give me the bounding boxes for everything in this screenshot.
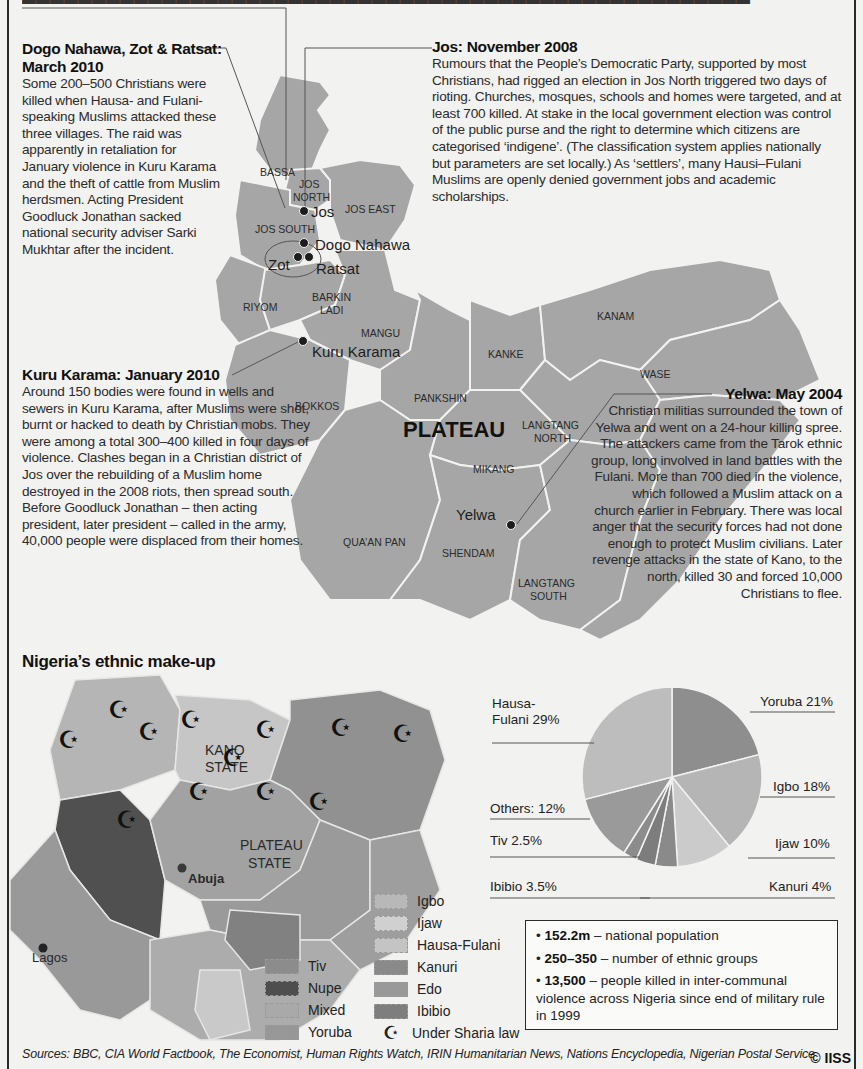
legend-col-1: Tiv Nupe Mixed Yoruba [265, 955, 352, 1043]
crescent-star-icon: ☪ [308, 788, 330, 815]
lga-label-riyom: RIYOM [243, 301, 277, 313]
place-dot-dogo [300, 239, 309, 248]
legend-swatch [374, 894, 408, 909]
story-title: Dogo Nahawa, Zot & Ratsat: March 2010 [22, 40, 222, 76]
lga-label-north2: NORTH [534, 432, 571, 444]
lga-label-quaan-pan: QUA’AN PAN [343, 536, 406, 548]
story-dogo-nahawa: Dogo Nahawa, Zot & Ratsat: March 2010 So… [22, 40, 222, 259]
abuja-dot [178, 864, 187, 873]
lga-label-wase: WASE [640, 368, 671, 380]
crescent-star-icon: ☪ [188, 778, 210, 805]
legend-item-tiv: Tiv [265, 955, 352, 977]
lga-label-jos-south: JOS SOUTH [255, 223, 315, 235]
crescent-star-icon: ☪ [255, 778, 277, 805]
legend-swatch [374, 982, 408, 997]
crescent-star-icon: ☪ [180, 706, 202, 733]
lagos-dot [39, 944, 48, 953]
fact-box: • 152.2m – national population • 250–350… [525, 920, 838, 1030]
legend-item-kanuri: Kanuri [374, 956, 519, 978]
lga-label-jos-east: JOS EAST [345, 203, 396, 215]
legend-item-yoruba: Yoruba [265, 1021, 352, 1043]
lga-label-pankshin: PANKSHIN [414, 392, 467, 404]
story-body: Some 200–500 Christians were killed when… [22, 76, 222, 259]
crescent-star-icon: ☪ [222, 744, 244, 771]
place-dot-kuru [299, 337, 308, 346]
label-lagos: Lagos [32, 950, 68, 965]
lga-label-north: NORTH [293, 191, 330, 203]
story-title: Jos: November 2008 [432, 38, 842, 56]
story-body: Around 150 bodies were found in wells an… [22, 384, 312, 550]
place-dot-yelwa [507, 521, 516, 530]
story-kuru-karama: Kuru Karama: January 2010 Around 150 bod… [22, 366, 312, 550]
legend-swatch [374, 916, 408, 931]
place-dot-zot [294, 253, 303, 262]
story-body: Christian militias surrounded the town o… [590, 403, 842, 602]
pie-label-tiv: Tiv 2.5% [490, 833, 542, 849]
lga-label-kanke: KANKE [488, 348, 524, 360]
lga-label-mikang: MIKANG [473, 463, 514, 475]
crescent-star-icon: ☪ [330, 714, 352, 741]
lga-label-langtang: LANGTANG [522, 419, 579, 431]
pie-label-ibibio: Ibibio 3.5% [490, 879, 557, 895]
place-label-kuru: Kuru Karama [312, 343, 401, 360]
fact-killed: • 13,500 – people killed in inter-commun… [536, 972, 827, 1025]
crescent-star-icon: ☪ [374, 1022, 408, 1044]
crescent-star-icon: ☪ [108, 696, 130, 723]
legend-item-sharia: ☪Under Sharia law [374, 1022, 519, 1044]
crescent-star-icon: ☪ [58, 726, 80, 753]
legend-swatch [265, 959, 299, 974]
pie-label-yoruba: Yoruba 21% [760, 694, 833, 710]
place-label-yelwa: Yelwa [456, 506, 496, 523]
crescent-star-icon: ☪ [138, 718, 160, 745]
crescent-star-icon: ☪ [255, 716, 277, 743]
lga-label-shendam: SHENDAM [442, 547, 495, 559]
legend-item-hausa-fulani: Hausa-Fulani [374, 934, 519, 956]
lga-label-mangu: MANGU [361, 327, 400, 339]
pie-label-others: Others: 12% [490, 801, 565, 817]
lga-label-bassa: BASSA [260, 166, 295, 178]
state-label-plateau: PLATEAU [403, 417, 505, 442]
pie-label-ijaw: Ijaw 10% [775, 836, 830, 852]
legend-swatch [374, 938, 408, 953]
crescent-star-icon: ☪ [116, 806, 138, 833]
sources-credit: Sources: BBC, CIA World Factbook, The Ec… [22, 1047, 815, 1061]
place-dot-ratsat [305, 253, 314, 262]
legend-item-ibibio: Ibibio [374, 1000, 519, 1022]
lga-label-jos: JOS [299, 178, 319, 190]
section-title-ethnic: Nigeria’s ethnic make-up [22, 652, 215, 672]
label-plateau-state-2: STATE [248, 855, 291, 871]
legend-item-nupe: Nupe [265, 977, 352, 999]
story-body: Rumours that the People’s Democratic Par… [432, 56, 842, 205]
lga-label-kanam: KANAM [597, 310, 634, 322]
lga-label-barkin: BARKIN [312, 291, 351, 303]
legend-swatch [265, 1003, 299, 1018]
place-dot-jos [300, 207, 309, 216]
pie-label-kanuri: Kanuri 4% [769, 879, 831, 895]
story-jos: Jos: November 2008 Rumours that the Peop… [432, 38, 842, 205]
copyright: © IISS [810, 1050, 851, 1066]
label-plateau-state: PLATEAU [240, 837, 303, 853]
legend-item-mixed: Mixed [265, 999, 352, 1021]
legend-item-edo: Edo [374, 978, 519, 1000]
legend-swatch [265, 1025, 299, 1040]
fact-population: • 152.2m – national population [536, 927, 827, 945]
lga-label-ladi: LADI [320, 304, 343, 316]
lga-label-langtang2: LANGTANG [518, 577, 575, 589]
pie-label-hausa-fulani: Hausa-Fulani 29% [492, 696, 560, 728]
legend-swatch [374, 960, 408, 975]
lga-bassa [255, 75, 330, 180]
legend-col-2: Igbo Ijaw Hausa-Fulani Kanuri Edo Ibibio… [374, 890, 519, 1044]
label-abuja: Abuja [188, 871, 225, 886]
story-title: Yelwa: May 2004 [590, 385, 842, 403]
story-title: Kuru Karama: January 2010 [22, 366, 312, 384]
pie-label-igbo: Igbo 18% [773, 779, 830, 795]
place-label-zot: Zot [268, 256, 291, 273]
lga-label-south: SOUTH [530, 590, 567, 602]
place-label-jos: Jos [311, 203, 334, 220]
legend-swatch [374, 1004, 408, 1019]
place-label-dogo: Dogo Nahawa [315, 236, 411, 253]
legend-item-ijaw: Ijaw [374, 912, 519, 934]
crescent-star-icon: ☪ [392, 720, 414, 747]
place-label-ratsat: Ratsat [316, 260, 360, 277]
fact-ethnic-groups: • 250–350 – number of ethnic groups [536, 950, 827, 968]
